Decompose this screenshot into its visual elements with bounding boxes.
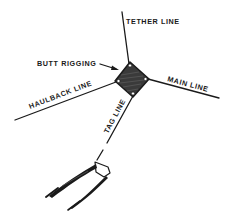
tongs-shading <box>62 171 88 186</box>
tongs <box>46 162 110 210</box>
shackle-pin-left-icon <box>117 79 120 82</box>
butt-rigging <box>115 62 149 97</box>
tongs-arm-right-tip <box>68 201 80 210</box>
butt-rigging-diagram: TETHER LINE MAIN LINE HAULBACK LINE TAG … <box>0 0 232 217</box>
main-line-label: MAIN LINE <box>166 74 209 94</box>
haulback-line: HAULBACK LINE <box>15 78 116 120</box>
tag-line: TAG LINE <box>97 96 133 160</box>
shackle-pin-bottom-icon <box>131 92 134 95</box>
butt-rigging-callout: BUTT RIGGING <box>37 59 119 70</box>
tether-line-label: TETHER LINE <box>126 17 180 26</box>
main-line: MAIN LINE <box>148 74 219 98</box>
shackle-pin-right-icon <box>144 77 147 80</box>
shackle-pin-top-icon <box>128 64 131 67</box>
tongs-head <box>95 162 110 177</box>
callout-arrow-head-icon <box>111 66 119 71</box>
butt-rigging-label: BUTT RIGGING <box>37 59 97 68</box>
tether-line: TETHER LINE <box>122 12 180 64</box>
tag-line-lower-stroke <box>97 150 103 160</box>
